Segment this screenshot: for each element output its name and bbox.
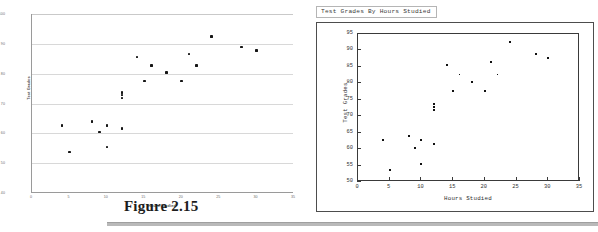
matlab-data-point [547,57,549,59]
excel-plot-area [31,14,293,193]
matlab-data-point [433,106,435,108]
matlab-y-tick-label: 85 [329,66,353,71]
excel-gridline [32,74,293,75]
matlab-y-tick-label: 65 [329,132,353,137]
matlab-data-point [535,53,537,55]
excel-data-point [68,151,71,154]
matlab-y-tick-label: 95 [329,33,353,38]
excel-gridline [32,14,293,15]
matlab-x-tick-label: 25 [505,185,527,190]
matlab-x-tick-mark [547,177,548,181]
matlab-x-tick-label: 5 [378,185,400,190]
matlab-data-point [382,139,384,141]
excel-data-point [195,64,198,67]
matlab-data-point [459,74,461,76]
excel-data-point [121,127,124,130]
matlab-data-point [509,41,511,43]
matlab-data-point [414,147,416,149]
excel-data-point [150,64,153,67]
matlab-plot-area [357,33,579,181]
matlab-scatter-chart: Test Grades Hours Studied 50556065707580… [316,22,594,212]
matlab-data-point [420,163,422,165]
excel-gridline [32,163,293,164]
matlab-data-point [433,103,435,105]
matlab-data-point [420,139,422,141]
matlab-x-tick-mark [484,177,485,181]
matlab-y-tick-mark [357,165,361,166]
excel-data-point [180,80,183,83]
excel-data-point [210,35,213,38]
excel-gridline [32,44,293,45]
excel-y-tick-label: 40 [0,193,5,197]
excel-gridline [32,133,293,134]
matlab-x-tick-mark [516,177,517,181]
matlab-x-tick-mark [452,177,453,181]
matlab-y-tick-mark [357,99,361,100]
excel-y-tick-label: 80 [0,74,5,78]
matlab-x-tick-mark [420,177,421,181]
matlab-data-point [471,81,473,83]
excel-data-point [106,124,109,127]
matlab-y-tick-mark [357,33,361,34]
excel-y-axis-label: Test Grades [27,68,31,108]
matlab-data-point [490,61,492,63]
matlab-y-tick-label: 90 [329,49,353,54]
matlab-chart-title: Test Grades By Hours Studied [316,6,437,18]
excel-y-tick-label: 90 [0,44,5,48]
matlab-x-tick-label: 15 [441,185,463,190]
matlab-x-tick-label: 30 [536,185,558,190]
excel-y-tick-label: 50 [0,163,5,167]
matlab-data-point [497,74,499,76]
excel-data-point [136,56,139,59]
matlab-y-tick-label: 55 [329,165,353,170]
excel-x-tick-label: 5 [58,196,78,200]
excel-data-point [91,120,94,123]
matlab-y-tick-mark [357,82,361,83]
excel-data-point [121,91,124,94]
excel-y-tick-label: 60 [0,133,5,137]
matlab-x-tick-mark [357,177,358,181]
excel-x-tick-label: 0 [21,196,41,200]
matlab-y-tick-label: 75 [329,99,353,104]
excel-scatter-chart: Test Grades Hours Studied 40506070809010… [0,0,308,215]
matlab-data-point [484,90,486,92]
excel-data-point [188,53,191,56]
matlab-y-tick-label: 80 [329,82,353,87]
excel-data-point [165,71,168,74]
matlab-data-point [433,109,435,111]
excel-gridline [32,104,293,105]
excel-data-point [255,49,258,52]
matlab-y-tick-label: 60 [329,148,353,153]
matlab-x-tick-label: 10 [409,185,431,190]
excel-data-point [240,46,243,49]
excel-y-tick-label: 100 [0,14,5,18]
matlab-y-tick-mark [357,148,361,149]
matlab-y-tick-mark [357,49,361,50]
matlab-data-point [446,64,448,66]
matlab-y-tick-mark [357,132,361,133]
matlab-y-tick-label: 70 [329,115,353,120]
matlab-x-tick-label: 20 [473,185,495,190]
excel-data-point [61,124,64,127]
matlab-x-tick-mark [579,177,580,181]
excel-data-point [143,80,146,83]
matlab-y-tick-mark [357,181,361,182]
excel-x-tick-label: 10 [96,196,116,200]
figure-page: Test Grades Hours Studied 40506070809010… [0,0,598,232]
matlab-y-tick-mark [357,66,361,67]
excel-data-point [106,146,109,149]
excel-x-tick-label: 35 [283,196,303,200]
matlab-x-tick-label: 35 [568,185,590,190]
matlab-data-point [452,90,454,92]
matlab-data-point [433,143,435,145]
excel-y-tick-label: 70 [0,104,5,108]
matlab-y-tick-mark [357,115,361,116]
figure-caption: Figure 2.15 [124,198,198,215]
matlab-data-point [408,135,410,137]
matlab-data-point [389,169,391,171]
matlab-x-axis-label: Hours Studied [357,195,579,202]
excel-x-tick-label: 25 [208,196,228,200]
matlab-x-tick-label: 0 [346,185,368,190]
excel-x-tick-label: 30 [246,196,266,200]
caption-divider [107,222,598,226]
